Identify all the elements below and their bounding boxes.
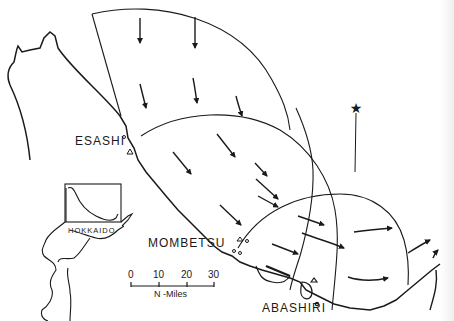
- sector-north: [92, 9, 290, 130]
- scale-unit-label: N -Miles: [154, 289, 187, 299]
- coast-lagoons: [256, 266, 319, 306]
- coastline-northwest: [8, 32, 440, 310]
- map-canvas: ★: [0, 0, 454, 321]
- inset-map: [41, 184, 132, 321]
- scale-tick-10: 10: [153, 269, 164, 280]
- station-label-mombetsu: MOMBETSU: [148, 236, 225, 250]
- coastline-east: [430, 270, 437, 310]
- scale-bar: [131, 282, 214, 287]
- sector-east: [238, 194, 408, 285]
- sector-middle: [141, 108, 337, 310]
- scale-tick-20: 20: [181, 269, 192, 280]
- north-arrow: ★: [350, 100, 363, 172]
- inset-label-hokkaido: HOKKAIDO: [68, 226, 116, 235]
- north-star-icon: ★: [350, 100, 363, 116]
- station-label-abashiri: ABASHIRI: [262, 301, 326, 315]
- station-label-esashi: ESASHI: [75, 134, 125, 148]
- scan-edge-shadow: [440, 0, 454, 321]
- scale-tick-0: 0: [128, 269, 134, 280]
- scale-tick-30: 30: [208, 269, 219, 280]
